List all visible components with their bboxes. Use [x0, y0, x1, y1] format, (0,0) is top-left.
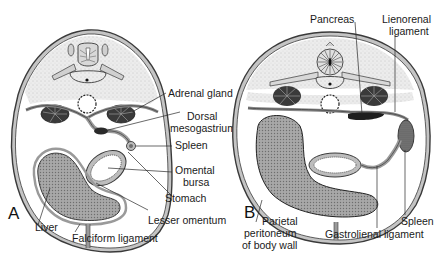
- label-lienorenal-2: ligament: [389, 25, 429, 37]
- aorta-a: [78, 95, 96, 113]
- label-stomach: Stomach: [165, 192, 207, 204]
- label-liver: Liver: [35, 221, 58, 233]
- kidney-right-b: [360, 86, 388, 106]
- panel-b: B Pancreas Lienorenal ligament Spleen Ga…: [233, 13, 434, 251]
- label-gastrolienal-ligament: Gastrolienal ligament: [325, 228, 424, 240]
- label-lienorenal-1: Lienorenal: [382, 13, 431, 25]
- kidney-left-b: [273, 86, 301, 106]
- panel-label-b: B: [244, 203, 255, 222]
- label-omental-bursa-1: Omental: [175, 164, 215, 176]
- spleen-b: [398, 120, 414, 152]
- label-adrenal-gland: Adrenal gland: [168, 87, 233, 99]
- label-dorsal-mesogastrium-2: mesogastrium: [170, 122, 236, 134]
- pancreas-a: [94, 128, 108, 135]
- label-parietal-1: Parietal: [262, 215, 298, 227]
- panel-label-a: A: [8, 204, 20, 223]
- label-pancreas: Pancreas: [310, 13, 354, 25]
- label-parietal-2: peritoneum: [244, 227, 297, 239]
- label-dorsal-mesogastrium-1: Dorsal: [187, 110, 217, 122]
- label-omental-bursa-2: bursa: [183, 176, 209, 188]
- label-falciform-ligament: Falciform ligament: [72, 232, 158, 244]
- label-spleen-b: Spleen: [401, 215, 434, 227]
- panel-a: A Adrenal gland Dorsal mesogastrium Sple…: [8, 30, 236, 252]
- label-parietal-3: of body wall: [242, 239, 297, 251]
- diagram-canvas: A Adrenal gland Dorsal mesogastrium Sple…: [0, 0, 442, 260]
- label-lesser-omentum: Lesser omentum: [148, 214, 226, 226]
- label-spleen-a: Spleen: [175, 139, 208, 151]
